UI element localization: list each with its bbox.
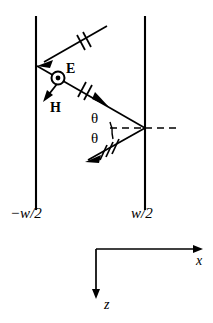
middle-ray-arrowhead — [92, 92, 109, 107]
h-field-label: H — [50, 101, 61, 115]
e-field-label: E — [66, 62, 75, 76]
x-axis-arrowhead — [193, 245, 203, 253]
z-axis-arrowhead — [92, 289, 100, 299]
wall-left-label: −w/2 — [10, 206, 42, 221]
lower-ray-arrowhead — [85, 155, 101, 163]
diagram-canvas — [0, 0, 213, 323]
coordinate-axes — [92, 245, 203, 299]
e-field-out-of-page-dot-icon — [52, 72, 65, 85]
theta-lower-label: θ — [91, 131, 98, 146]
e-field-center-dot — [56, 76, 61, 81]
x-axis-label: x — [196, 254, 202, 268]
wall-right-label: w/2 — [131, 206, 153, 221]
waveguide-ray-diagram: −w/2 w/2 E H θ θ x z — [0, 0, 213, 323]
z-axis-label: z — [104, 298, 109, 312]
theta-upper-arc — [110, 122, 112, 128]
incident-ray-line — [44, 26, 107, 62]
theta-lower-arc — [112, 128, 113, 139]
theta-upper-label: θ — [91, 111, 98, 126]
